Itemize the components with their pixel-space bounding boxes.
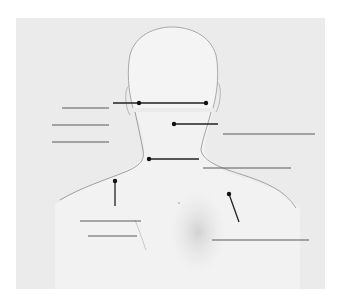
pointer-dot-3 [147, 157, 151, 161]
pointer-dot-4 [113, 179, 117, 183]
spine-mark [178, 202, 180, 204]
pointer-dot-1a [137, 101, 141, 105]
pointer-dot-2 [172, 122, 176, 126]
body-illustration [55, 27, 300, 289]
torso-shape [55, 112, 300, 289]
anatomy-diagram [0, 0, 343, 302]
head-outline [128, 27, 217, 108]
pointer-dot-5 [227, 192, 231, 196]
pointer-dot-1b [204, 101, 208, 105]
